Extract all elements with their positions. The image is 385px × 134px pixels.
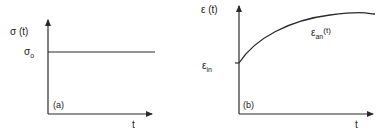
panel-b-strain-curve: [239, 12, 375, 63]
panel-a-plot: [48, 20, 155, 114]
panel-a-x-axis-label: t: [132, 120, 135, 130]
panel-b-curve-arg: (t): [323, 26, 331, 35]
panel-b-plot: [235, 6, 375, 114]
panel-b-curve-label: εan(t): [311, 28, 331, 38]
panel-a-sigma0-label: σo: [24, 47, 34, 57]
panel-b-x-axis-label: t: [355, 120, 358, 130]
panel-a-sigma0-sub: o: [30, 52, 34, 59]
panel-b-label: (b): [243, 101, 254, 110]
panel-a-label: (a): [53, 101, 64, 110]
diagram-canvas: [0, 0, 385, 134]
panel-b-initial-strain-label: εin: [202, 61, 212, 71]
panel-b-y-axis-label: ε (t): [201, 5, 218, 15]
panel-a-y-axis-label: σ (t): [10, 27, 28, 37]
panel-b-initial-sub: in: [206, 66, 211, 73]
